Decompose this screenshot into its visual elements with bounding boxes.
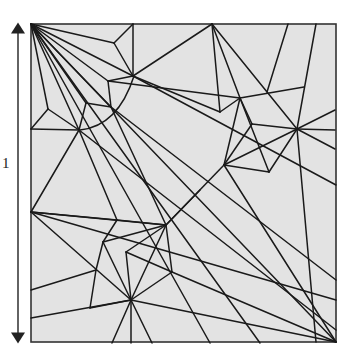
crease-line	[31, 129, 79, 130]
crease-line	[297, 129, 335, 130]
dimension-label: 1	[2, 155, 10, 172]
crease-pattern-diagram	[0, 0, 354, 359]
